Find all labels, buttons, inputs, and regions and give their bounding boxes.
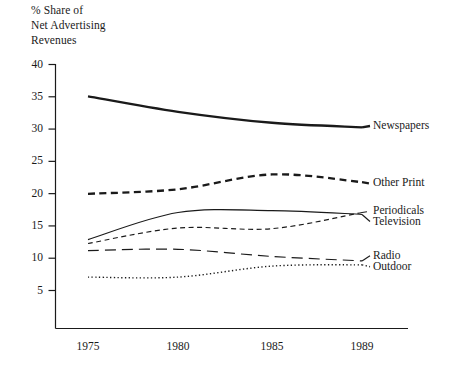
series-leader-other-print — [362, 182, 370, 183]
x-axis-tick-label: 1980 — [155, 340, 201, 352]
series-leader-radio — [362, 256, 370, 261]
data-series-group — [88, 96, 370, 278]
series-leader-television — [362, 214, 370, 221]
series-line-newspapers — [88, 96, 362, 127]
x-axis-tick-label: 1975 — [65, 340, 111, 352]
series-line-radio — [88, 249, 362, 261]
series-leader-outdoor — [362, 265, 370, 267]
x-axis-tick-label: 1985 — [249, 340, 295, 352]
series-label-newspapers: Newspapers — [373, 119, 429, 132]
series-line-outdoor — [88, 265, 362, 278]
advertising-revenue-share-chart: % Share ofNet AdvertisingRevenues 403530… — [0, 0, 454, 374]
series-line-periodicals — [88, 213, 362, 244]
y-axis-tick-label: 40 — [17, 58, 43, 70]
series-label-other-print: Other Print — [373, 176, 424, 189]
series-label-outdoor: Outdoor — [373, 260, 411, 273]
y-axis-tick-label: 30 — [17, 122, 43, 134]
y-axis-tick-label: 5 — [17, 284, 43, 296]
y-axis-tick-label: 25 — [17, 154, 43, 166]
y-axis-tick-label: 35 — [17, 90, 43, 102]
series-line-other-print — [88, 174, 362, 193]
series-leader-newspapers — [362, 126, 370, 127]
series-line-television — [88, 210, 362, 240]
x-axis-tick-label: 1989 — [339, 340, 385, 352]
axes — [56, 64, 409, 329]
y-axis-tick-label: 10 — [17, 251, 43, 263]
y-axis-tick-label: 20 — [17, 187, 43, 199]
series-label-television: Television — [373, 215, 421, 228]
series-leader-periodicals — [362, 211, 370, 212]
y-axis-tick-label: 15 — [17, 219, 43, 231]
y-axis-ticks — [49, 65, 56, 291]
